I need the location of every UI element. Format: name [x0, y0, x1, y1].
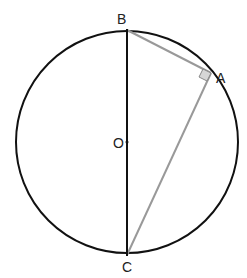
label-A: A — [216, 70, 226, 86]
label-C: C — [122, 259, 132, 275]
center-point-O — [126, 141, 129, 144]
label-O: O — [113, 135, 124, 151]
label-B: B — [117, 11, 126, 27]
segment-BA — [127, 30, 211, 73]
circle-diagram: B A O C — [0, 0, 247, 278]
